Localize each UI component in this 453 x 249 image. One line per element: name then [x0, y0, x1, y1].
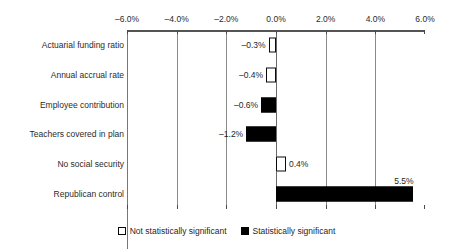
- x-tick-label: 4.0%: [366, 14, 385, 24]
- bar: [261, 97, 276, 112]
- plot-area: [127, 30, 425, 209]
- zero-line: [276, 30, 277, 209]
- axis-tick-bottom: [276, 205, 277, 209]
- x-tick-label: –4.0%: [165, 14, 189, 24]
- axis-tick-top: [177, 30, 178, 34]
- x-tick-label: 0.0%: [266, 14, 285, 24]
- axis-tick-top: [326, 30, 327, 34]
- bar-value-label: –1.2%: [219, 129, 243, 139]
- x-tick-label: –6.0%: [115, 14, 139, 24]
- chart-legend: Not statistically significantStatistical…: [0, 226, 453, 236]
- y-category-label: Republican control: [0, 189, 124, 199]
- legend-label: Not statistically significant: [130, 226, 227, 236]
- axis-tick-top: [375, 30, 376, 34]
- bar: [266, 67, 276, 82]
- bar: [246, 127, 276, 142]
- axis-tick-top: [226, 30, 227, 34]
- axis-line-left: [127, 32, 128, 211]
- x-tick-label: –2.0%: [214, 14, 238, 24]
- x-tick-label: 2.0%: [316, 14, 335, 24]
- bar-value-label: –0.4%: [239, 70, 263, 80]
- legend-swatch-filled-icon: [241, 227, 249, 235]
- legend-swatch-hollow-icon: [118, 227, 126, 235]
- gridline: [326, 30, 327, 209]
- bar-chart: –6.0%–4.0%–2.0%0.0%2.0%4.0%6.0% Actuaria…: [0, 0, 453, 249]
- legend-item[interactable]: Not statistically significant: [118, 226, 227, 236]
- axis-tick-top: [276, 30, 277, 34]
- y-category-label: No social security: [0, 159, 124, 169]
- axis-tick-bottom: [177, 205, 178, 209]
- gridline: [177, 30, 178, 209]
- bar-value-label: 0.4%: [289, 159, 308, 169]
- bar-value-label: 5.5%: [394, 176, 413, 186]
- bar-value-label: –0.3%: [241, 40, 265, 50]
- y-category-label: Teachers covered in plan: [0, 129, 124, 139]
- bar-value-label: –0.6%: [234, 100, 258, 110]
- y-category-label: Annual accrual rate: [0, 70, 124, 80]
- x-tick-label: 6.0%: [415, 14, 434, 24]
- gridline: [375, 30, 376, 209]
- y-category-label: Actuarial funding ratio: [0, 40, 124, 50]
- bar: [269, 37, 276, 52]
- gridline: [226, 30, 227, 209]
- bar: [276, 157, 286, 172]
- axis-tick-bottom: [326, 205, 327, 209]
- axis-tick-top: [424, 30, 425, 34]
- axis-tick-top: [127, 30, 128, 34]
- y-category-label: Employee contribution: [0, 100, 124, 110]
- axis-tick-bottom: [375, 205, 376, 209]
- bar: [276, 187, 413, 202]
- legend-label: Statistically significant: [253, 226, 336, 236]
- axis-tick-bottom: [424, 205, 425, 209]
- legend-item[interactable]: Statistically significant: [241, 226, 336, 236]
- axis-tick-bottom: [127, 205, 128, 209]
- axis-tick-bottom: [226, 205, 227, 209]
